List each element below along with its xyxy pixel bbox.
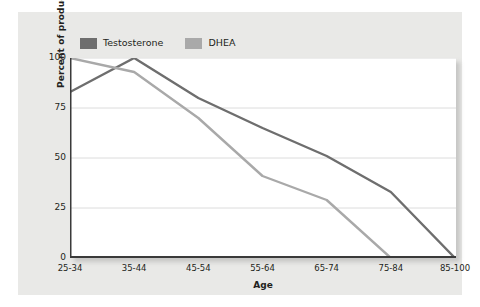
legend-item-testosterone: Testosterone [80, 38, 163, 49]
y-tick-label: 50 [55, 153, 66, 162]
x-tick-label: 45-54 [186, 264, 211, 273]
y-axis-tick-labels: 0255075100 [44, 58, 66, 258]
legend-item-dhea: DHEA [185, 38, 235, 49]
plot-wrapper: Percent of production in men 0255075100 … [70, 58, 456, 258]
chart-legend: Testosterone DHEA [80, 36, 235, 50]
x-axis-tick-labels: 25-3435-4445-5455-6465-7475-8485-100 [70, 264, 456, 278]
x-tick-label: 35-44 [122, 264, 147, 273]
x-tick-label: 55-64 [250, 264, 275, 273]
x-tick-label: 65-74 [314, 264, 339, 273]
x-tick-label: 75-84 [378, 264, 403, 273]
chart-svg [70, 58, 456, 258]
chart-figure: Testosterone DHEA Percent of production … [18, 12, 462, 295]
x-tick-label: 85-100 [440, 264, 470, 273]
legend-label-testosterone: Testosterone [103, 38, 163, 48]
legend-label-dhea: DHEA [208, 38, 235, 48]
y-tick-label: 75 [55, 103, 66, 112]
y-tick-label: 0 [60, 253, 66, 262]
y-tick-label: 100 [49, 53, 66, 62]
x-tick-label: 25-34 [58, 264, 83, 273]
legend-swatch-testosterone [80, 38, 97, 49]
x-axis-title: Age [70, 280, 456, 290]
legend-swatch-dhea [185, 38, 202, 49]
y-tick-label: 25 [55, 203, 66, 212]
